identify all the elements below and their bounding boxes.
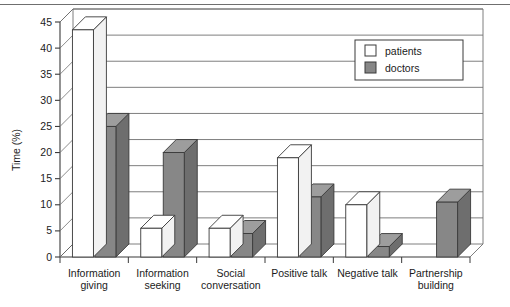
legend-label[interactable]: doctors (385, 62, 419, 74)
x-axis[interactable]: InformationgivingInformationseekingSocia… (60, 257, 470, 291)
x-tick-label[interactable]: Information (136, 267, 189, 279)
x-tick-label[interactable]: Information (68, 267, 121, 279)
y-tick-label[interactable]: 25 (40, 120, 52, 132)
legend[interactable]: patientsdoctors (355, 40, 463, 80)
y-tick-label[interactable]: 15 (40, 172, 52, 184)
y-axis-title[interactable]: Time (%) (10, 129, 22, 171)
y-tick-label[interactable]: 0 (46, 251, 52, 263)
x-tick-label-line2[interactable]: giving (80, 279, 108, 291)
y-tick-label[interactable]: 5 (46, 224, 52, 236)
legend-swatch[interactable] (365, 45, 376, 56)
chart-labels-layer: 051015202530354045Time (%)Informationgiv… (0, 0, 510, 307)
x-tick-label[interactable]: Partnership (409, 267, 463, 279)
chart-figure: 051015202530354045Time (%)Informationgiv… (0, 0, 510, 307)
x-tick-label-line2[interactable]: seeking (144, 279, 180, 291)
x-tick-label-line2[interactable]: conversation (201, 279, 261, 291)
y-tick-label[interactable]: 35 (40, 68, 52, 80)
y-tick-label[interactable]: 45 (40, 16, 52, 28)
y-tick-label[interactable]: 30 (40, 94, 52, 106)
y-tick-label[interactable]: 20 (40, 146, 52, 158)
legend-label[interactable]: patients (385, 45, 422, 57)
legend-swatch[interactable] (365, 62, 376, 73)
x-tick-label[interactable]: Positive talk (271, 267, 328, 279)
x-tick-label[interactable]: Social (217, 267, 246, 279)
x-tick-label[interactable]: Negative talk (337, 267, 398, 279)
y-tick-label[interactable]: 10 (40, 198, 52, 210)
y-tick-label[interactable]: 40 (40, 42, 52, 54)
x-tick-label-line2[interactable]: building (418, 279, 454, 291)
